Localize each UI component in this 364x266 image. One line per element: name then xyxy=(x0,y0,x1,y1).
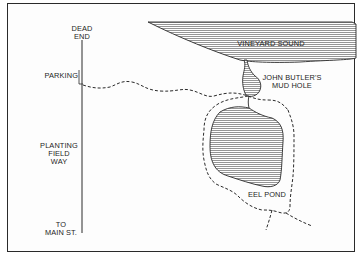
to-main-st-label: TO MAIN ST. xyxy=(40,221,82,237)
dead-end-label: DEAD END xyxy=(70,25,94,41)
vineyard-sound-label: VINEYARD SOUND xyxy=(230,40,312,48)
eel-pond-label: EEL POND xyxy=(248,191,288,199)
eel-pond-water xyxy=(210,107,283,187)
planting-field-way-label: PLANTING FIELD WAY xyxy=(38,142,80,166)
trail-branch-southwest xyxy=(266,210,272,230)
trail-branch-southeast xyxy=(286,213,312,226)
channel xyxy=(248,96,249,108)
mud-hole-label: JOHN BUTLER'S MUD HOLE xyxy=(258,74,326,90)
parking-label: PARKING xyxy=(40,72,78,80)
